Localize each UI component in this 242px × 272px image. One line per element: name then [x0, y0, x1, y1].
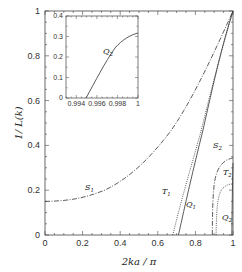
- label-s1: S1: [85, 183, 94, 193]
- chart: 0 0.2 0.4 0.6 0.8 1 0 0.2 0.4 0.6 0.8 1 …: [0, 0, 242, 272]
- y-tick-0: 0: [35, 230, 40, 240]
- x-tick-0.4: 0.4: [114, 238, 127, 248]
- curve-t2: [216, 184, 233, 235]
- inset-x-tick-0.996: 0.996: [88, 100, 106, 107]
- x-tick-0.6: 0.6: [152, 238, 165, 248]
- curve-labels: S1 T1 Q1 S2 T2 Q2: [85, 141, 233, 223]
- y-tick-0.4: 0.4: [27, 140, 40, 150]
- label-s2: S2: [213, 141, 222, 151]
- inset-x-tick-labels: 0.994 0.996 0.998 1: [68, 100, 141, 107]
- y-tick-1: 1: [35, 6, 40, 16]
- curve-t1: [173, 11, 233, 235]
- x-tick-1: 1: [230, 238, 235, 248]
- inset-y-tick-0.1: 0.1: [53, 74, 63, 81]
- label-t2: T2: [223, 168, 232, 178]
- inset-y-tick-0.4: 0.4: [53, 12, 63, 19]
- inset-x-tick-0.994: 0.994: [68, 100, 86, 107]
- label-t1: T1: [162, 187, 171, 197]
- y-tick-0.2: 0.2: [27, 185, 40, 195]
- x-tick-labels: 0 0.2 0.4 0.6 0.8 1: [42, 238, 235, 248]
- inset-y-tick-0: 0: [59, 94, 63, 101]
- y-axis-title: 1/ L(k): [13, 106, 24, 140]
- y-tick-0.6: 0.6: [27, 96, 40, 106]
- x-tick-0: 0: [42, 238, 47, 248]
- label-q2: Q2: [222, 213, 233, 223]
- x-tick-0.8: 0.8: [189, 238, 202, 248]
- label-q1: Q1: [186, 200, 196, 210]
- inset: 0 0.1 0.2 0.3 0.4 0.994 0.996 0.998 1 Q2: [53, 12, 140, 107]
- y-tick-labels: 0 0.2 0.4 0.6 0.8 1: [27, 6, 40, 240]
- inset-x-tick-1: 1: [136, 100, 140, 107]
- x-tick-0.2: 0.2: [76, 238, 89, 248]
- inset-y-tick-0.2: 0.2: [53, 53, 63, 60]
- inset-frame: [66, 16, 138, 98]
- inset-y-tick-labels: 0 0.1 0.2 0.3 0.4: [53, 12, 63, 101]
- inset-x-tick-0.998: 0.998: [109, 100, 127, 107]
- x-axis-title: 2ka / π: [121, 256, 157, 267]
- y-tick-0.8: 0.8: [27, 51, 40, 61]
- inset-y-tick-0.3: 0.3: [53, 33, 63, 40]
